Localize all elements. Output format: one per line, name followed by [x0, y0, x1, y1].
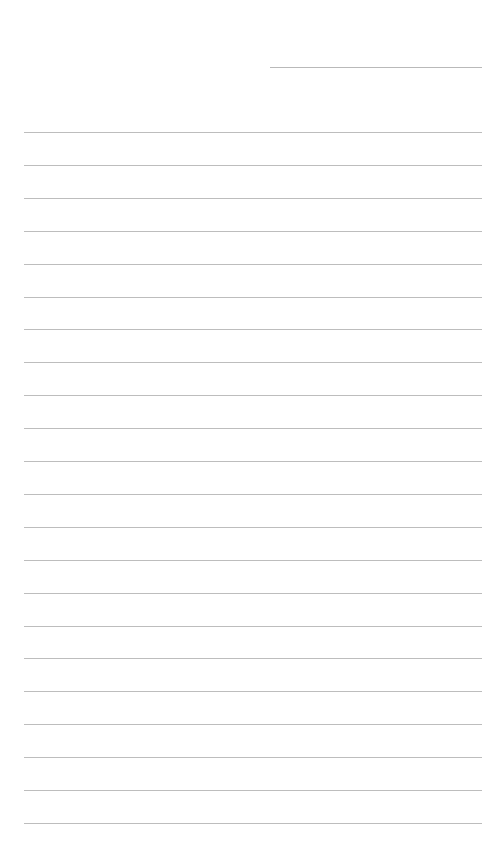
ruled-line — [24, 132, 482, 133]
ruled-line — [24, 724, 482, 725]
ruled-line — [24, 297, 482, 298]
ruled-line — [24, 329, 482, 330]
ruled-line — [24, 231, 482, 232]
ruled-line — [24, 264, 482, 265]
ruled-line — [24, 165, 482, 166]
ruled-lines — [24, 0, 482, 854]
ruled-line — [24, 494, 482, 495]
ruled-line — [24, 461, 482, 462]
ruled-line — [24, 691, 482, 692]
ruled-line — [24, 395, 482, 396]
lined-paper-page — [0, 0, 502, 854]
ruled-line — [24, 658, 482, 659]
ruled-line — [24, 823, 482, 824]
ruled-line — [24, 757, 482, 758]
ruled-line — [24, 527, 482, 528]
ruled-line — [24, 593, 482, 594]
ruled-line — [24, 198, 482, 199]
ruled-line — [24, 560, 482, 561]
ruled-line — [24, 790, 482, 791]
ruled-line — [24, 626, 482, 627]
ruled-line — [24, 428, 482, 429]
ruled-line — [24, 362, 482, 363]
